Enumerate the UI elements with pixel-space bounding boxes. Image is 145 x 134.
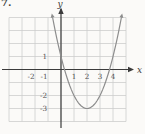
- y-axis-label: y: [56, 0, 63, 9]
- x-tick-label: -1: [40, 72, 47, 81]
- x-tick-label: 2: [85, 72, 90, 81]
- parabola-graph: xy-2-112341-2-3: [0, 0, 145, 134]
- x-tick-label: 3: [98, 72, 103, 81]
- y-tick-label: 1: [42, 52, 47, 61]
- y-tick-label: -2: [40, 91, 47, 100]
- graph-figure: 7. xy-2-112341-2-3: [0, 0, 145, 134]
- x-tick-label: -2: [27, 72, 34, 81]
- x-axis-label: x: [137, 65, 142, 75]
- x-tick-label: 1: [72, 72, 77, 81]
- x-axis-arrowhead-icon: [128, 67, 134, 72]
- y-tick-label: -3: [40, 104, 47, 113]
- x-tick-label: 4: [111, 72, 116, 81]
